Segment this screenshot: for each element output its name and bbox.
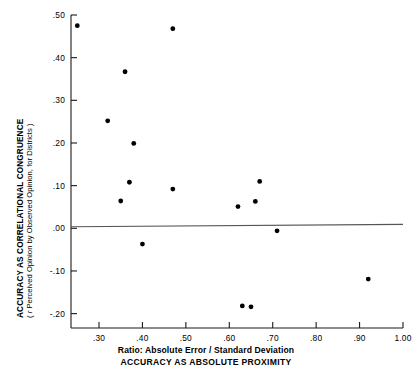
data-point (131, 141, 136, 146)
y-tick-label: -.10 (35, 266, 65, 276)
regression-line-group (71, 224, 403, 226)
data-point (249, 304, 254, 309)
x-tick-label: .40 (127, 333, 157, 343)
y-tick-label: -.20 (35, 309, 65, 319)
data-point (170, 187, 175, 192)
scatter-plot-figure: ACCURACY AS CORRELATIONAL CONGRUENCE ( r… (0, 0, 412, 377)
y-tick-label: .50 (35, 10, 65, 20)
data-point (253, 199, 258, 204)
x-axis-title-line2: ACCURACY AS ABSOLUTE PROXIMITY (0, 357, 412, 367)
data-point (236, 204, 241, 209)
data-point (275, 228, 280, 233)
data-points-group (75, 23, 371, 309)
data-point (170, 26, 175, 31)
data-point (366, 277, 371, 282)
y-tick-label: .30 (35, 95, 65, 105)
y-tick-label: .00 (35, 223, 65, 233)
data-point (257, 179, 262, 184)
y-tick-label: .10 (35, 181, 65, 191)
data-point (127, 180, 132, 185)
data-point (140, 242, 145, 247)
data-point (75, 23, 80, 28)
x-tick-label: .30 (84, 333, 114, 343)
x-tick-label: .90 (345, 333, 375, 343)
data-point (123, 69, 128, 74)
x-tick-label: .80 (301, 333, 331, 343)
x-tick-label: .50 (171, 333, 201, 343)
x-tick-label: 1.00 (388, 333, 412, 343)
regression-line (71, 224, 403, 226)
data-point (105, 118, 110, 123)
data-point (118, 199, 123, 204)
x-tick-label: .60 (214, 333, 244, 343)
axes-group (71, 15, 403, 328)
x-axis-title-line1: Ratio: Absolute Error / Standard Deviati… (0, 345, 412, 355)
data-point (240, 304, 245, 309)
x-tick-label: .70 (258, 333, 288, 343)
y-tick-label: .40 (35, 53, 65, 63)
y-tick-label: .20 (35, 138, 65, 148)
